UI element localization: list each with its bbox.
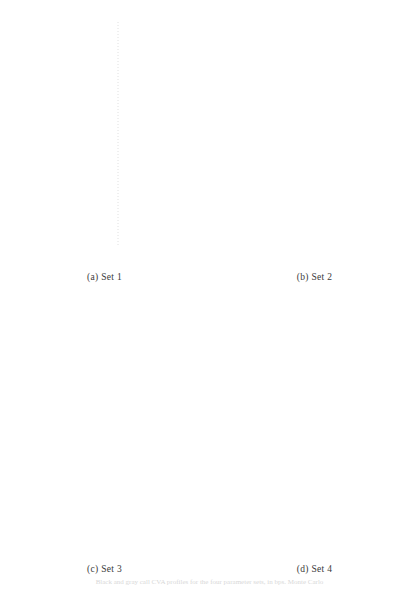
plot-set-3 [0,292,209,567]
subcaption-set-4: (d) Set 4 [210,564,419,574]
figure-call-cva-profiles: (a) Set 1 (b) Set 2 (c) Set 3 (d) Set 4 … [0,0,419,592]
panel-set-3: (c) Set 3 [0,292,209,587]
subcaption-set-1: (a) Set 1 [0,272,209,282]
plot-set-2 [210,0,419,275]
panel-set-4: (d) Set 4 [210,292,419,587]
plot-set-1 [0,0,209,275]
plot-set-4 [210,292,419,567]
subcaption-set-3: (c) Set 3 [0,564,209,574]
panel-set-1: (a) Set 1 [0,0,209,295]
panel-set-2: (b) Set 2 [210,0,419,295]
figure-caption: Black and gray call CVA profiles for the… [0,578,419,586]
subcaption-set-2: (b) Set 2 [210,272,419,282]
